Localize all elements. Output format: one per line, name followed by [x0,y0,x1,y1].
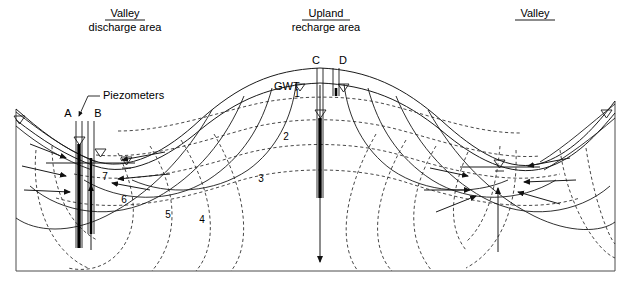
equipotential-label-7: 7 [102,171,108,182]
heading-upland-center-line1: Upland [309,7,344,19]
equipotential-lines [35,97,615,271]
domain-boundary [16,101,615,271]
heading-upland-center-line2: recharge area [292,21,361,33]
ground-surface [16,68,615,166]
equipotential-label-3: 3 [258,173,264,184]
heading-valley-left: Valley discharge area [89,7,163,33]
heading-valley-left-line1: Valley [110,7,140,19]
heading-valley-right-line1: Valley [520,7,550,19]
well-label-c: C [312,54,320,66]
cross-section-svg: A B C [0,0,631,289]
heading-valley-right: Valley [515,7,555,20]
heading-valley-left-line2: discharge area [89,21,163,33]
well-label-b: B [94,107,101,119]
equipotential-label-2: 2 [283,131,289,142]
piezometer-a[interactable] [74,121,85,248]
flow-net-figure: A B C [0,0,631,289]
well-label-a: A [64,107,72,119]
equipotential-label-1: 1 [294,88,300,99]
equipotential-label-4: 4 [199,214,205,225]
piezometers-label: Piezometers [103,89,165,101]
equipotential-label-6: 6 [121,194,127,205]
piezometer-d[interactable] [333,68,349,96]
well-label-d: D [339,54,347,66]
equipotential-label-5: 5 [165,209,171,220]
heading-upland-center: Upland recharge area [292,7,361,33]
